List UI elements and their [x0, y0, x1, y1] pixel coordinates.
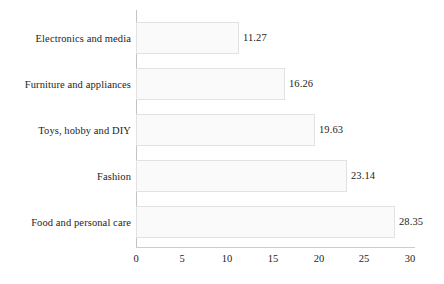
bar-toys-hobby-and-diy[interactable] — [136, 114, 315, 146]
category-label: Fashion — [0, 171, 131, 183]
x-tick-label: 5 — [179, 252, 184, 265]
x-tick-label: 30 — [405, 252, 416, 265]
bar-food-and-personal-care[interactable] — [136, 206, 395, 238]
x-tick-label: 25 — [359, 252, 370, 265]
plot-area: 11.27 16.26 19.63 23.14 28.35 0 5 10 15 … — [136, 0, 444, 284]
x-tick-label: 20 — [314, 252, 325, 265]
bar-value-label: 19.63 — [319, 124, 343, 136]
bar-value-label: 11.27 — [243, 32, 267, 44]
category-label: Electronics and media — [0, 33, 131, 45]
category-label: Food and personal care — [0, 217, 131, 229]
x-tick-label: 0 — [133, 252, 138, 265]
bar-fashion[interactable] — [136, 160, 347, 192]
x-axis-line — [136, 247, 415, 248]
bar-chart: Electronics and media Furniture and appl… — [0, 0, 444, 284]
bar-furniture-and-appliances[interactable] — [136, 68, 285, 100]
bar-electronics-and-media[interactable] — [136, 22, 239, 54]
category-label: Toys, hobby and DIY — [0, 125, 131, 137]
bar-value-label: 16.26 — [289, 78, 313, 90]
category-axis-labels: Electronics and media Furniture and appl… — [0, 0, 131, 284]
x-tick-label: 10 — [222, 252, 233, 265]
category-label: Furniture and appliances — [0, 79, 131, 91]
x-tick-label: 15 — [268, 252, 279, 265]
x-axis-tick-labels: 0 5 10 15 20 25 30 — [136, 252, 444, 272]
bar-value-label: 28.35 — [399, 216, 423, 228]
bar-value-label: 23.14 — [351, 170, 375, 182]
